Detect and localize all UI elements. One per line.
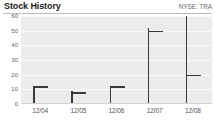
y-axis-tick-label: 40	[11, 42, 18, 48]
y-axis: 0102030405060	[0, 16, 21, 104]
y-axis-tick-label: 30	[11, 57, 18, 63]
gridline	[21, 60, 212, 61]
x-axis: 12/0412/0512/0612/0712/08	[21, 105, 212, 119]
x-axis-tick-label: 12/08	[185, 107, 201, 114]
ticker-symbol-label: NYSE: TRA	[179, 3, 212, 10]
x-axis-tick-label: 12/05	[70, 107, 86, 114]
close-tick	[148, 31, 163, 33]
x-axis-tick-label: 12/06	[109, 107, 125, 114]
close-tick	[71, 92, 86, 94]
y-axis-tick-label: 0	[15, 101, 18, 107]
close-tick	[33, 86, 48, 88]
gridline	[21, 89, 212, 90]
close-tick	[186, 75, 201, 77]
x-axis-tick-label: 12/04	[32, 107, 48, 114]
y-axis-tick-label: 50	[11, 28, 18, 34]
y-axis-tick-label: 20	[11, 72, 18, 78]
axis-baseline	[21, 103, 212, 104]
high-low-bar	[110, 86, 112, 102]
high-low-bar	[186, 16, 188, 103]
header-divider	[3, 13, 212, 14]
stock-history-widget: Stock History NYSE: TRA 0102030405060 12…	[0, 0, 215, 124]
x-axis-tick-label: 12/07	[147, 107, 163, 114]
widget-header: Stock History NYSE: TRA	[0, 0, 215, 16]
high-low-bar	[33, 86, 35, 102]
y-axis-tick-label: 60	[11, 13, 18, 19]
plot-area	[21, 16, 212, 104]
gridline	[21, 16, 212, 17]
gridline	[21, 75, 212, 76]
high-low-bar	[148, 28, 150, 103]
close-tick	[110, 86, 125, 88]
gridline	[21, 31, 212, 32]
page-title: Stock History	[4, 1, 61, 11]
gridline	[21, 45, 212, 46]
y-axis-tick-label: 10	[11, 86, 18, 92]
